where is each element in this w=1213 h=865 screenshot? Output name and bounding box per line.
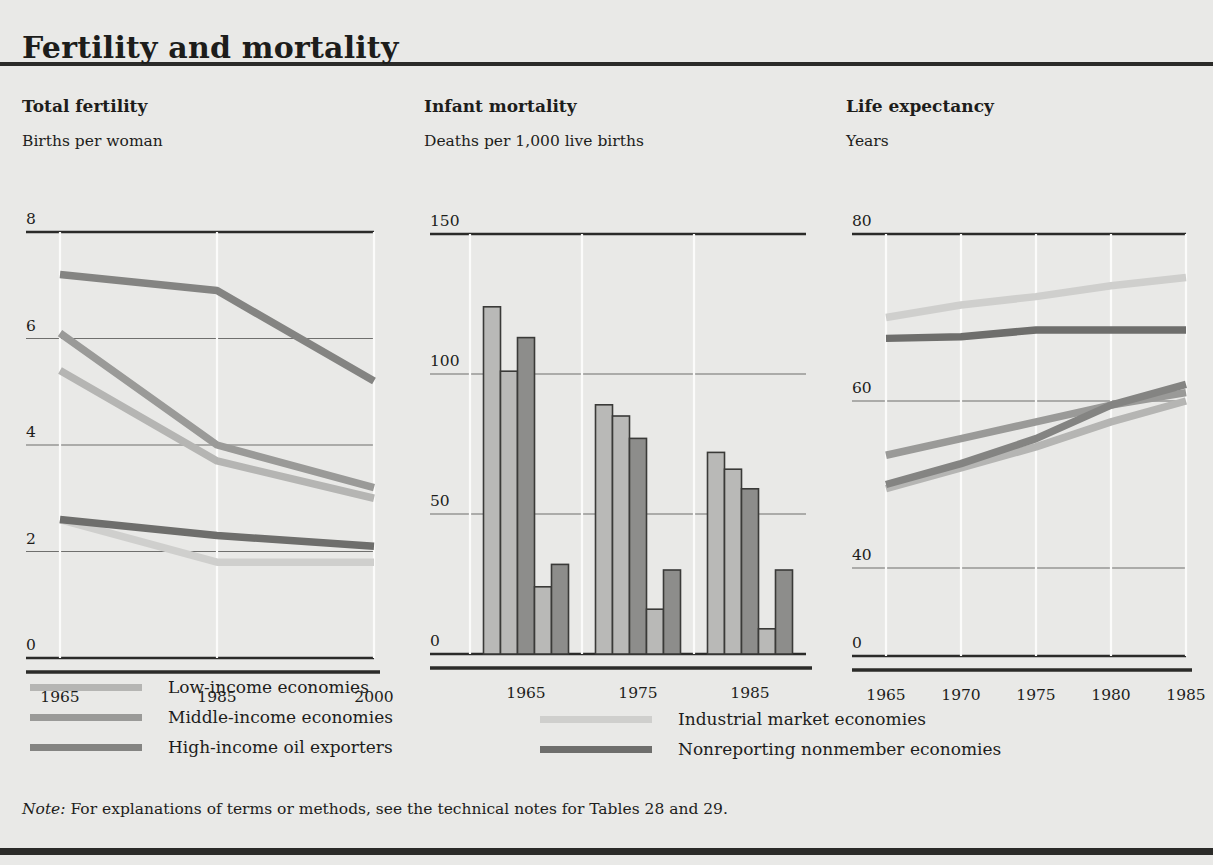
svg-text:6: 6: [26, 317, 36, 335]
chart-total-fertility: 02468196519852000: [22, 152, 402, 712]
figure-legend: Low-income economiesMiddle-income econom…: [0, 672, 1213, 772]
footer-rule: [0, 848, 1213, 855]
page-title: Fertility and mortality: [22, 30, 399, 65]
svg-text:60: 60: [852, 379, 872, 397]
legend-item: Middle-income economies: [30, 702, 393, 732]
legend-swatch-high-income-oil: [30, 744, 142, 751]
legend-column-right: Industrial market economiesNonreporting …: [540, 704, 1001, 764]
chart-life-expectancy: 040608019651970197519801985: [846, 152, 1206, 712]
svg-text:0: 0: [852, 634, 862, 652]
svg-text:8: 8: [26, 210, 36, 228]
svg-text:100: 100: [430, 352, 460, 370]
svg-text:0: 0: [26, 636, 36, 654]
figure-page: Fertility and mortality Total fertility …: [0, 0, 1213, 865]
legend-label: Middle-income economies: [168, 707, 393, 727]
legend-swatch-middle-income: [30, 714, 142, 721]
legend-item: Industrial market economies: [540, 704, 1001, 734]
legend-swatch-nonreporting: [540, 746, 652, 753]
legend-column-left: Low-income economiesMiddle-income econom…: [30, 672, 393, 762]
panel-title-infant-mortality: Infant mortality: [424, 96, 824, 116]
legend-label: Industrial market economies: [678, 709, 926, 729]
panel-subtitle-life-expectancy: Years: [846, 132, 1206, 150]
chart-infant-mortality: 050100150196519751985: [424, 152, 824, 712]
svg-text:4: 4: [26, 423, 36, 441]
svg-text:50: 50: [430, 492, 450, 510]
legend-item: Low-income economies: [30, 672, 393, 702]
panel-life-expectancy: Life expectancy Years 040608019651970197…: [846, 96, 1206, 712]
panel-total-fertility: Total fertility Births per woman 0246819…: [22, 96, 402, 712]
legend-swatch-industrial-market: [540, 716, 652, 723]
note-text: For explanations of terms or methods, se…: [66, 800, 728, 818]
panel-infant-mortality: Infant mortality Deaths per 1,000 live b…: [424, 96, 824, 712]
panel-subtitle-infant-mortality: Deaths per 1,000 live births: [424, 132, 824, 150]
svg-text:150: 150: [430, 212, 460, 230]
panel-subtitle-total-fertility: Births per woman: [22, 132, 402, 150]
legend-label: High-income oil exporters: [168, 737, 393, 757]
legend-label: Low-income economies: [168, 677, 369, 697]
legend-item: Nonreporting nonmember economies: [540, 734, 1001, 764]
svg-text:80: 80: [852, 212, 872, 230]
legend-swatch-low-income: [30, 684, 142, 691]
panel-title-total-fertility: Total fertility: [22, 96, 402, 116]
svg-text:2: 2: [26, 530, 36, 548]
legend-item: High-income oil exporters: [30, 732, 393, 762]
svg-text:40: 40: [852, 546, 872, 564]
panel-title-life-expectancy: Life expectancy: [846, 96, 1206, 116]
legend-label: Nonreporting nonmember economies: [678, 739, 1001, 759]
svg-text:0: 0: [430, 632, 440, 650]
figure-note: Note: For explanations of terms or metho…: [22, 800, 728, 818]
note-prefix: Note:: [22, 800, 66, 818]
